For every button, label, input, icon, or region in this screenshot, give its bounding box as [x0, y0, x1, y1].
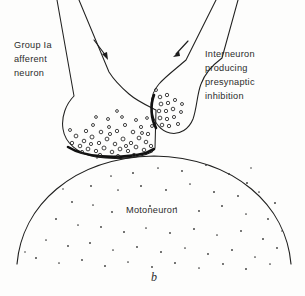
- ia-soma-synaptic-cleft: [68, 147, 154, 157]
- figure-caption: b: [151, 270, 157, 284]
- neuron-synapse-figure: Group Ia afferent neuron Interneuron pro…: [0, 0, 305, 296]
- label-motoneuron: Motoneuron: [126, 205, 178, 215]
- ia-conduction-arrow: [94, 40, 108, 60]
- label-line-in-3: presynaptic: [205, 77, 255, 87]
- label-line-ia-3: neuron: [14, 68, 44, 78]
- label-line-ia-2: afferent: [14, 54, 47, 64]
- label-line-in-4: inhibition: [205, 91, 244, 101]
- label-interneuron-presynaptic-inhibition: Interneuron producing presynaptic inhibi…: [205, 49, 255, 101]
- label-line-in-1: Interneuron: [205, 49, 255, 59]
- interneuron-vesicles: [155, 89, 184, 128]
- ia-terminal-vesicles: [69, 110, 154, 158]
- figure-canvas: Group Ia afferent neuron Interneuron pro…: [0, 0, 305, 296]
- label-group-ia-afferent-neuron: Group Ia afferent neuron: [14, 40, 52, 78]
- interneuron-conduction-arrow: [173, 41, 188, 57]
- label-line-ia-1: Group Ia: [14, 40, 52, 50]
- label-line-in-2: producing: [205, 63, 248, 73]
